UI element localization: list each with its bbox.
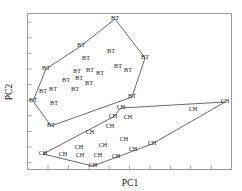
data-point-label: CH [94, 151, 103, 158]
data-point-label: BT [107, 47, 115, 54]
data-point-label: BT [141, 53, 149, 60]
y-axis-title: PC2 [4, 84, 14, 101]
data-point-label: BT [128, 92, 136, 99]
hull-ch [43, 102, 225, 166]
data-point-label: CH [124, 113, 133, 120]
data-point-label: BT [124, 66, 132, 73]
data-point-label: BT [71, 85, 79, 92]
data-point-label: BT [77, 41, 85, 48]
data-point-label: BT [39, 87, 47, 94]
data-point-label: BT [86, 66, 94, 73]
data-point-label: CH [109, 112, 118, 119]
data-point-label: CH [117, 103, 126, 110]
data-point-label: CH [148, 139, 157, 146]
x-axis-title: PC1 [122, 178, 139, 188]
bt-point-labels: BT BT BT BT BT BT BT BT BT BT BT BT BT B… [29, 14, 149, 128]
data-point-label: CH [39, 149, 48, 156]
data-point-label: BT [62, 76, 70, 83]
ch-point-labels: CH CH CH CH CH CH CH CH CH CH CH CH CH C… [39, 97, 230, 168]
data-point-label: CH [75, 143, 84, 150]
data-point-label: BT [42, 64, 50, 71]
data-point-label: BT [50, 99, 58, 106]
data-point-label: BT [85, 79, 93, 86]
data-point-label: CH [120, 135, 129, 142]
data-point-label: CH [129, 145, 138, 152]
chart-container: BT BT BT BT BT BT BT BT BT BT BT BT BT B… [0, 0, 242, 191]
data-point-label: BT [29, 96, 37, 103]
data-point-label: CH [189, 105, 198, 112]
data-point-label: CH [221, 97, 230, 104]
data-point-label: CH [106, 122, 115, 129]
data-point-label: CH [59, 150, 68, 157]
data-point-label: BT [73, 67, 81, 74]
data-point-label: BT [96, 69, 104, 76]
data-point-label: BT [47, 121, 55, 128]
data-point-label: BT [49, 85, 57, 92]
data-point-label: CH [112, 152, 121, 159]
data-point-label: CH [89, 161, 98, 168]
data-point-label: CH [86, 128, 95, 135]
data-point-label: BT [111, 14, 119, 21]
data-point-label: BT [114, 62, 122, 69]
data-point-label: CH [76, 151, 85, 158]
data-point-label: BT [75, 74, 83, 81]
pca-scatter-plot: BT BT BT BT BT BT BT BT BT BT BT BT BT B… [0, 0, 242, 191]
data-point-label: BT [82, 54, 90, 61]
y-axis-ticks [28, 22, 32, 162]
x-axis-ticks [48, 166, 211, 170]
data-point-label: CH [99, 141, 108, 148]
